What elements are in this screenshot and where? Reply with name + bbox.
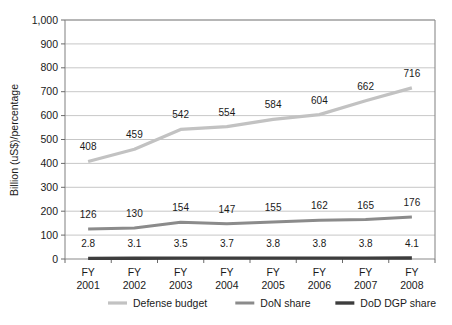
data-label: 3.7: [220, 238, 234, 249]
x-category-label-top: FY: [313, 266, 326, 278]
x-category-label-year: 2008: [400, 279, 424, 291]
y-tick-label: 300: [40, 181, 58, 193]
y-tick-label: 100: [40, 229, 58, 241]
x-category-label-year: 2004: [215, 279, 239, 291]
data-label: 3.1: [127, 238, 141, 249]
x-category-label-top: FY: [220, 266, 233, 278]
x-category-label-top: FY: [359, 266, 372, 278]
data-label: 4.1: [405, 238, 419, 249]
y-tick-label: 1,000: [32, 14, 58, 26]
y-tick-label: 800: [40, 61, 58, 73]
data-label: 542: [172, 109, 189, 120]
data-label: 408: [80, 141, 97, 152]
y-tick-label: 400: [40, 157, 58, 169]
x-category-label-top: FY: [81, 266, 94, 278]
data-label: 155: [265, 202, 282, 213]
data-label: 3.8: [359, 238, 373, 249]
series-group: [88, 88, 412, 258]
data-label: 126: [80, 209, 97, 220]
data-label: 662: [357, 81, 374, 92]
x-category-label-year: 2003: [169, 279, 193, 291]
x-axis-labels: FY2001FY2002FY2003FY2004FY2005FY2006FY20…: [76, 266, 423, 291]
data-label: 2.8: [81, 238, 95, 249]
x-category-label-year: 2001: [76, 279, 100, 291]
y-tick-label: 700: [40, 85, 58, 97]
y-tick-label: 600: [40, 109, 58, 121]
data-label: 162: [311, 200, 328, 211]
x-category-label-year: 2002: [123, 279, 147, 291]
legend-label: Defense budget: [133, 297, 207, 309]
y-axis-title: Billion (uS$)/percentage: [8, 84, 20, 196]
x-category-label-top: FY: [128, 266, 141, 278]
series-line-defense-budget: [88, 88, 412, 162]
x-category-label-year: 2007: [354, 279, 378, 291]
y-axis-ticks: 01002003004005006007008009001,000: [32, 14, 65, 265]
y-tick-label: 900: [40, 38, 58, 50]
x-category-label-top: FY: [174, 266, 187, 278]
data-label: 3.8: [312, 238, 326, 249]
data-label: 604: [311, 95, 328, 106]
legend-label: DoN share: [260, 297, 310, 309]
data-label: 3.5: [174, 238, 188, 249]
x-category-label-top: FY: [266, 266, 279, 278]
data-label: 554: [219, 107, 236, 118]
data-label: 130: [126, 208, 143, 219]
line-chart: 01002003004005006007008009001,000 408459…: [0, 0, 452, 325]
x-category-label-year: 2006: [308, 279, 332, 291]
chart-legend: Defense budgetDoN shareDoD DGP share: [108, 297, 436, 309]
data-label: 165: [357, 200, 374, 211]
data-label: 459: [126, 129, 143, 140]
data-label: 147: [219, 204, 236, 215]
y-tick-label: 0: [52, 253, 58, 265]
x-category-label-year: 2005: [261, 279, 285, 291]
gridlines-group: [65, 20, 435, 235]
legend-label: DoD DGP share: [360, 297, 436, 309]
data-label: 3.8: [266, 238, 280, 249]
data-label: 716: [404, 68, 421, 79]
data-label: 154: [172, 202, 189, 213]
x-category-label-top: FY: [405, 266, 418, 278]
y-tick-label: 500: [40, 133, 58, 145]
data-label: 584: [265, 99, 282, 110]
chart-container: 01002003004005006007008009001,000 408459…: [0, 0, 452, 325]
y-tick-label: 200: [40, 205, 58, 217]
data-label: 176: [404, 197, 421, 208]
